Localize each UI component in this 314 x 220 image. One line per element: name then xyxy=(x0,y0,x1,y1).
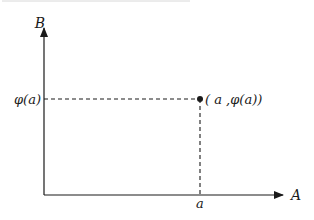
x-axis-label: A xyxy=(289,187,301,203)
function-point-diagram: B A φ(a) a ( a ,φ(a)) xyxy=(0,0,314,220)
y-tick-label: φ(a) xyxy=(14,92,41,107)
x-tick-label: a xyxy=(196,196,204,211)
point-label: ( a ,φ(a)) xyxy=(205,92,262,107)
point-marker xyxy=(197,96,203,102)
y-axis-label: B xyxy=(34,15,45,31)
